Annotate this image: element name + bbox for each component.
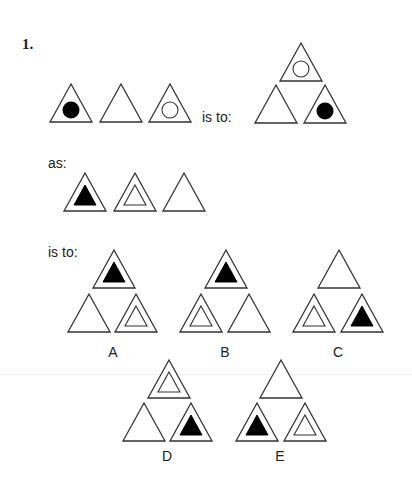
triangle-white-circle-icon — [149, 84, 191, 122]
triangle-white-triangle-icon — [293, 294, 335, 332]
option-d-figure[interactable] — [123, 360, 212, 441]
row1-sequence — [50, 84, 191, 122]
triangle-empty-icon — [260, 360, 302, 398]
triangle-black-triangle-icon — [170, 403, 212, 441]
triangle-empty-icon — [163, 173, 205, 211]
row1-result-cluster — [255, 43, 346, 123]
triangle-black-circle-icon — [50, 84, 92, 122]
triangle-white-triangle-icon — [114, 173, 156, 211]
triangle-empty-icon — [255, 85, 297, 123]
row2-sequence — [64, 173, 205, 211]
triangle-white-triangle-icon — [180, 294, 222, 332]
triangle-empty-icon — [100, 84, 142, 122]
triangle-empty-icon — [68, 294, 110, 332]
triangle-black-triangle-icon — [93, 250, 135, 288]
option-c-figure[interactable] — [293, 250, 383, 332]
triangle-empty-icon — [318, 250, 360, 288]
triangle-black-circle-icon — [304, 85, 346, 123]
option-e-figure[interactable] — [236, 360, 326, 441]
triangle-empty-icon — [228, 294, 270, 332]
puzzle-figures — [0, 0, 412, 494]
triangle-black-triangle-icon — [205, 250, 247, 288]
triangle-black-triangle-icon — [64, 173, 106, 211]
triangle-black-triangle-icon — [341, 294, 383, 332]
triangle-empty-icon — [123, 403, 165, 441]
triangle-black-triangle-icon — [236, 403, 278, 441]
option-b-figure[interactable] — [180, 250, 270, 332]
triangle-white-circle-icon — [280, 43, 322, 81]
option-a-figure[interactable] — [68, 250, 157, 332]
triangle-white-triangle-icon — [148, 360, 190, 398]
triangle-white-triangle-icon — [284, 403, 326, 441]
triangle-white-triangle-icon — [115, 294, 157, 332]
